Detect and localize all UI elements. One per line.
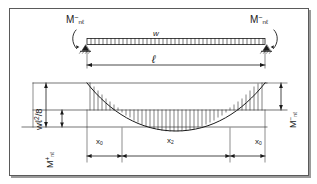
figure-canvas: M−nℓ M−nℓ w ℓ wℓ2/8 M+nℓ M−nℓ x0 x2 x0 bbox=[0, 0, 317, 184]
label-x-subscript: 0 bbox=[259, 141, 262, 146]
moment-curve bbox=[87, 83, 265, 131]
label-m-superscript: − bbox=[287, 117, 294, 121]
support-right-roller bbox=[261, 45, 272, 53]
label-x-subscript: 0 bbox=[100, 141, 103, 146]
label-segment-x0-left: x0 bbox=[96, 138, 103, 147]
moment-diagram-hatching bbox=[90, 83, 262, 131]
label-m-subscript: nℓ bbox=[262, 18, 267, 25]
support-left-pin bbox=[80, 45, 91, 53]
label-positive-moment: M+nℓ bbox=[45, 152, 55, 168]
label-wl-base: wℓ bbox=[33, 120, 44, 130]
distributed-load-hatching bbox=[91, 39, 263, 45]
distributed-load-box bbox=[87, 39, 265, 45]
label-m-subscript: nℓ bbox=[49, 152, 55, 157]
span-dimension-line bbox=[87, 50, 265, 68]
label-m-symbol: M bbox=[288, 121, 298, 129]
label-wl2-over-8: wℓ2/8 bbox=[34, 108, 44, 130]
label-m-subscript: nℓ bbox=[292, 112, 298, 117]
moment-arrow-left bbox=[73, 30, 77, 49]
label-m-subscript: nℓ bbox=[78, 18, 83, 25]
label-distributed-load: w bbox=[153, 30, 159, 38]
label-wl-exponent: 2 bbox=[33, 116, 40, 120]
label-x-subscript: 2 bbox=[171, 140, 174, 145]
dimension-m-negative bbox=[265, 83, 287, 110]
dimension-wl2-over-8 bbox=[44, 83, 48, 127]
label-span-length: ℓ bbox=[152, 54, 156, 65]
label-segment-x2: x2 bbox=[167, 137, 174, 146]
label-end-moment-right: M−nℓ bbox=[250, 14, 268, 26]
label-end-moment-left: M−nℓ bbox=[66, 14, 84, 26]
label-negative-moment-right: M−nℓ bbox=[288, 112, 298, 128]
label-wl-divisor: 8 bbox=[33, 108, 44, 113]
label-m-symbol: M bbox=[45, 161, 55, 169]
dimension-m-positive bbox=[60, 110, 64, 127]
segment-dimension-line bbox=[87, 110, 265, 162]
label-m-superscript: + bbox=[44, 157, 51, 161]
moment-arrow-right bbox=[274, 30, 278, 49]
label-segment-x0-right: x0 bbox=[255, 138, 262, 147]
